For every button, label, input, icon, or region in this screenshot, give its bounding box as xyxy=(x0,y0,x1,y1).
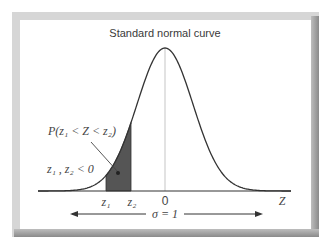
normal-curve-diagram: Standard normal curve P(z₁ < Z < z₂) z₁ … xyxy=(0,0,325,248)
zero-tick-label: 0 xyxy=(162,194,169,208)
condition-label: z₁ , z₂ < 0 xyxy=(46,162,94,176)
pointer-line xyxy=(91,142,118,172)
z2-tick-label: z₂ xyxy=(127,195,137,209)
z1-tick-label: z₁ xyxy=(101,195,111,209)
arrowhead-right-icon xyxy=(255,211,263,217)
diagram-title: Standard normal curve xyxy=(109,27,220,39)
probability-label: P(z₁ < Z < z₂) xyxy=(47,124,116,138)
pointer-dot xyxy=(116,171,120,175)
sigma-label: σ = 1 xyxy=(152,207,178,221)
z-axis-label: Z xyxy=(279,194,286,208)
arrowhead-left-icon xyxy=(70,211,78,217)
